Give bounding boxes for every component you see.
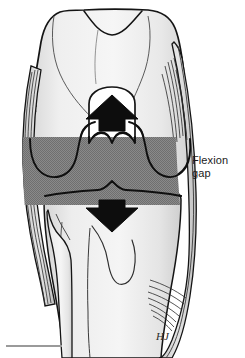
flexion-gap-label-line1: Flexion (192, 154, 228, 166)
artist-signature: HJ (155, 330, 170, 342)
flexion-gap-label-line2: gap (192, 167, 211, 179)
knee-flexion-gap-figure: HJ Flexiongap (0, 0, 245, 358)
bottom-rule (6, 345, 62, 347)
flexion-gap-label: Flexiongap (192, 154, 228, 180)
